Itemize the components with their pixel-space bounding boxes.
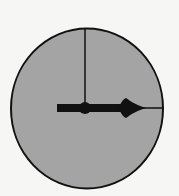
hour-hand-shaft [57, 104, 127, 112]
clock-svg [0, 0, 179, 196]
center-hub [79, 102, 91, 114]
clock-diagram [0, 0, 179, 196]
